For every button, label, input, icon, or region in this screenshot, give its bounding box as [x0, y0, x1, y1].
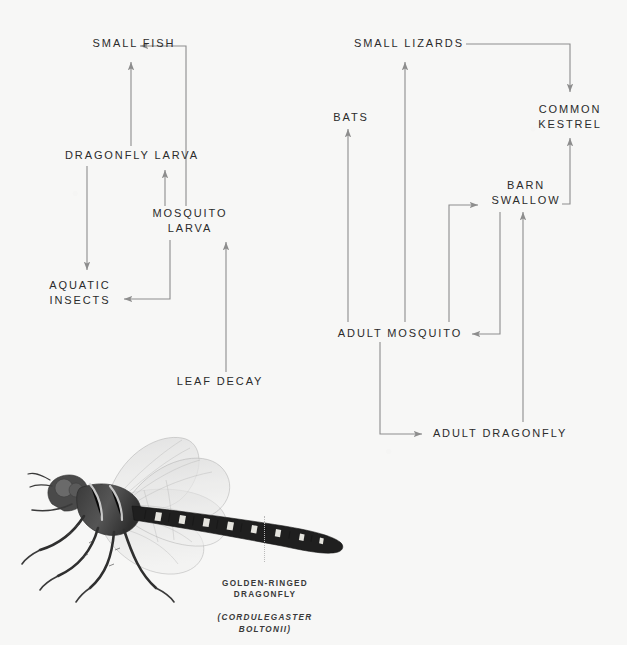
node-adult-mosquito[interactable]: ADULT MOSQUITO [333, 326, 467, 341]
node-barn-swallow[interactable]: BARN SWALLOW [487, 178, 565, 208]
specimen-scientific-name: (CORDULEGASTER BOLTONII) [200, 612, 330, 635]
node-dragonfly-larva[interactable]: DRAGONFLY LARVA [56, 148, 208, 163]
node-mosquito-larva[interactable]: MOSQUITO LARVA [150, 206, 230, 236]
specimen-common-name: GOLDEN-RINGED DRAGONFLY [200, 578, 330, 601]
node-bats[interactable]: BATS [330, 110, 372, 125]
link-adult-mosquito-to-barn-swallow [449, 205, 478, 322]
caption-leader-line [264, 516, 265, 562]
node-adult-dragonfly[interactable]: ADULT DRAGONFLY [430, 426, 570, 441]
node-leaf-decay[interactable]: LEAF DECAY [168, 374, 272, 389]
specimen-caption: GOLDEN-RINGED DRAGONFLY (CORDULEGASTER B… [200, 566, 330, 645]
link-small-lizards-to-common-kestrel [466, 44, 570, 92]
link-barn-swallow-to-adult-mosquito [472, 212, 500, 334]
node-small-fish[interactable]: SMALL FISH [86, 36, 182, 51]
link-mosquito-larva-to-small-fish [140, 46, 186, 206]
node-aquatic-insects[interactable]: AQUATIC INSECTS [40, 278, 120, 308]
food-web-diagram: SMALL FISHDRAGONFLY LARVAMOSQUITO LARVAA… [0, 0, 627, 645]
link-mosquito-larva-to-aquatic-insects [124, 240, 170, 299]
node-small-lizards[interactable]: SMALL LIZARDS [347, 36, 471, 51]
link-adult-mosquito-to-adult-dragonfly [380, 342, 422, 434]
node-common-kestrel[interactable]: COMMON KESTREL [530, 102, 610, 132]
